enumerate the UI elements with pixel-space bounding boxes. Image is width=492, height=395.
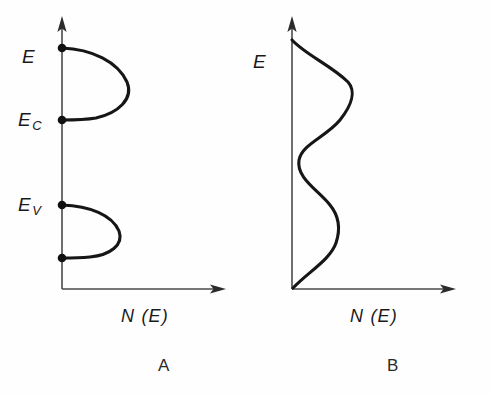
panel-a-dot-valence-edge: [58, 201, 67, 210]
panel-a-label-Ev-text: E: [18, 194, 31, 215]
panel-b-label-E: E: [253, 52, 266, 71]
panel-b-x-axis-label: N (E): [350, 307, 398, 325]
panel-a-label-Ev-subscript: V: [31, 203, 41, 218]
panel-a-dot-conduction-edge: [58, 116, 67, 125]
panel-a-caption: A: [158, 357, 170, 374]
panel-a-conduction-band-curve: [62, 48, 129, 120]
panel-a-dot-upper-conduction: [58, 44, 67, 53]
panel-a-group: [57, 16, 226, 294]
panel-a-label-Ec-subscript: C: [31, 118, 42, 133]
panel-a-dot-lower-valence: [58, 254, 67, 263]
panel-a-label-E: E: [22, 47, 35, 66]
panel-a-x-axis-label: N (E): [121, 307, 169, 325]
panel-b-caption: B: [387, 357, 399, 374]
panel-a-label-E-text: E: [22, 46, 35, 67]
panel-b-amorphous-dos-curve: [292, 40, 352, 288]
panel-b-group: [287, 16, 456, 294]
panel-a-label-Ec: EC: [18, 110, 42, 132]
panel-a-label-Ev: EV: [18, 195, 41, 217]
density-of-states-figure: E EC EV N (E) A E N (E) B: [0, 0, 492, 395]
panel-a-valence-band-curve: [62, 205, 120, 258]
figure-canvas: [0, 0, 492, 395]
panel-a-label-Ec-text: E: [18, 109, 31, 130]
